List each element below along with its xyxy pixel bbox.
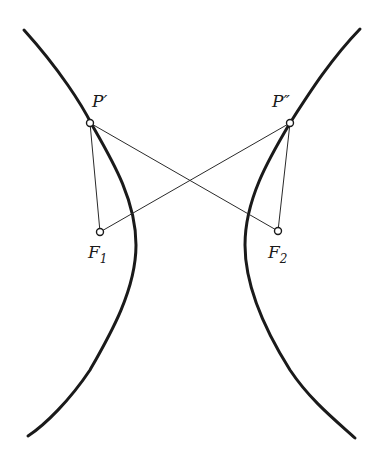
label-f2: F2 <box>267 242 287 266</box>
point-p1 <box>87 120 94 127</box>
label-p2: P″ <box>271 91 290 111</box>
label-p1: P′ <box>91 91 107 111</box>
focus-f2 <box>275 228 282 235</box>
left-hyperbola-branch <box>24 30 136 436</box>
right-hyperbola-branch <box>245 29 360 438</box>
point-p2 <box>287 120 294 127</box>
focus-f1 <box>97 229 104 236</box>
label-f1: F1 <box>87 242 107 266</box>
hyperbola-diagram: P′ P″ F1 F2 <box>0 0 378 465</box>
